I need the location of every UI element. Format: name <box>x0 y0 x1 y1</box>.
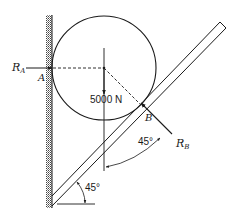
angle-arc-bottom <box>77 182 85 203</box>
point-b-label: B <box>145 113 152 123</box>
weight-label: 5000 N <box>90 95 122 105</box>
cylinder-wall-plank-diagram <box>0 0 238 221</box>
angle-top-label: 45° <box>138 137 153 147</box>
reaction-b-label: RB <box>176 138 189 151</box>
reaction-a-sub: A <box>20 67 25 75</box>
angle-bottom-label: 45° <box>85 183 100 193</box>
reaction-a-label: RA <box>12 62 25 75</box>
plank <box>52 22 226 206</box>
wall <box>46 15 52 208</box>
point-a-label: A <box>38 73 45 83</box>
reaction-b-sub: B <box>184 143 189 151</box>
